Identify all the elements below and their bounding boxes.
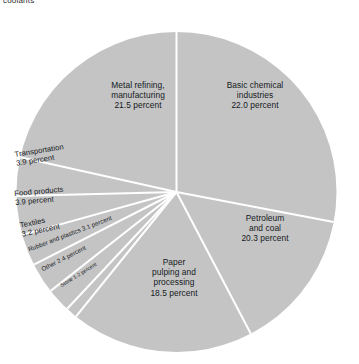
slice-label-basic-chemical: Basic chemical industries 22.0 percent <box>203 80 307 111</box>
slice-label-petroleum-and-coal: Petroleum and coal 20.3 percent <box>220 213 310 244</box>
pie-chart-figure: coolants Metal ref <box>0 0 359 364</box>
pie-chart-svg <box>0 0 359 364</box>
slice-label-paper-pulping: Paper pulping and processing 18.5 percen… <box>128 257 220 298</box>
slice-label-metal-refining: Metal refining, manufacturing 21.5 perce… <box>88 80 188 111</box>
